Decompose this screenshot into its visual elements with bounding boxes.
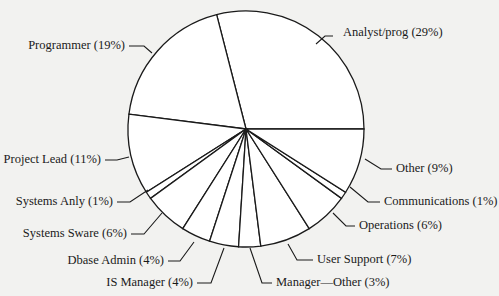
slice-label-communications: Communications (1%) — [384, 194, 498, 208]
leader-line-communications — [350, 187, 380, 202]
leader-line-other — [365, 159, 392, 169]
pie-chart: Analyst/prog (29%)Programmer (19%)Projec… — [0, 0, 499, 296]
leader-line-dbase-admin — [168, 242, 194, 261]
leader-line-systems-anly — [117, 190, 148, 202]
leader-line-is-manager — [197, 248, 224, 283]
slice-label-operations: Operations (6%) — [359, 218, 442, 232]
pie-svg: Analyst/prog (29%)Programmer (19%)Projec… — [0, 0, 499, 296]
leader-line-user-support — [288, 244, 313, 260]
slice-label-dbase-admin: Dbase Admin (4%) — [67, 253, 164, 267]
leader-line-programmer — [129, 46, 152, 53]
slice-label-is-manager: IS Manager (4%) — [106, 275, 193, 289]
slice-label-systems-anly: Systems Anly (1%) — [16, 194, 113, 208]
slice-label-other: Other (9%) — [396, 161, 453, 175]
slice-label-user-support: User Support (7%) — [317, 252, 411, 266]
slice-label-programmer: Programmer (19%) — [28, 38, 125, 52]
slice-label-manager-other: Manager—Other (3%) — [276, 275, 390, 289]
leader-line-manager-other — [250, 248, 272, 283]
slice-label-analyst-prog: Analyst/prog (29%) — [343, 25, 443, 39]
pie-slices — [128, 11, 364, 247]
leader-line-systems-sware — [131, 213, 162, 234]
slice-label-project-lead: Project Lead (11%) — [4, 152, 101, 166]
slice-label-systems-sware: Systems Sware (6%) — [23, 226, 127, 240]
leader-line-operations — [333, 213, 355, 226]
leader-line-project-lead — [105, 157, 129, 160]
